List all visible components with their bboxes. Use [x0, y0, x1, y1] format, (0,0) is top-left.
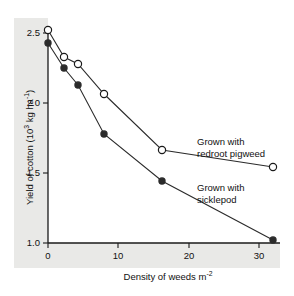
data-point [101, 131, 107, 137]
y-axis-title-text-end: ) [24, 90, 35, 93]
data-point [159, 178, 165, 184]
y-tick-label: 2.5 [12, 27, 40, 38]
data-point [60, 53, 67, 60]
data-point [270, 237, 276, 243]
data-point [158, 146, 165, 153]
figure-container: 2.5 2.0 1.5 1.0 0 10 20 30 Yield of cott… [0, 0, 294, 296]
annotation-sicklepod: Grown with sicklepod [197, 182, 245, 205]
annotation-redroot-pigweed: Grown with redroot pigweed [197, 136, 265, 159]
y-axis-title-text-mid: kg ha [24, 99, 35, 125]
y-axis-title: Yield of cotton (103 kg ha-1) [24, 90, 35, 205]
y-axis-title-text: Yield of cotton (10 [24, 129, 35, 205]
data-point [61, 65, 67, 71]
annotation-sicklepod-line1: Grown with [197, 182, 245, 194]
x-axis-title-text: Density of weeds m [124, 271, 207, 282]
annotation-redroot-pigweed-line2: redroot pigweed [197, 148, 265, 160]
data-point [45, 40, 51, 46]
x-tick-label: 0 [38, 250, 58, 261]
y-tick-marks [43, 33, 48, 243]
data-point [269, 163, 276, 170]
x-tick-marks [48, 243, 259, 248]
x-tick-label: 20 [179, 250, 199, 261]
x-axis-title: Density of weeds m-2 [0, 271, 294, 282]
x-tick-label: 30 [249, 250, 269, 261]
x-tick-label: 10 [108, 250, 128, 261]
y-tick-label: 1.0 [12, 237, 40, 248]
x-axis-title-sup-unit: -2 [206, 270, 212, 277]
data-point [100, 90, 107, 97]
y-axis-title-sup-unit: -1 [23, 93, 30, 99]
y-axis-title-sup-exp: 3 [23, 125, 30, 129]
data-point [75, 82, 81, 88]
data-point [74, 60, 81, 67]
data-point [44, 26, 51, 33]
annotation-redroot-pigweed-line1: Grown with [197, 136, 265, 148]
annotation-sicklepod-line2: sicklepod [197, 194, 245, 206]
